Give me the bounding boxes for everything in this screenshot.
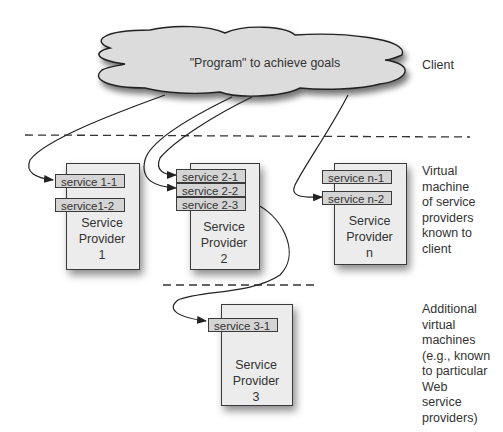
provider-1-label: Service Provider 1 [66, 215, 138, 263]
service-n-2: service n-2 [322, 191, 392, 205]
service-2-3: service 2-3 [176, 197, 246, 211]
service-1-1: service 1-1 [55, 174, 125, 188]
service-2-1: service 2-1 [176, 169, 246, 183]
additional-vm-label: Additional virtual machines (e.g., known… [422, 302, 490, 426]
provider-2-label: Service Provider 2 [190, 219, 258, 267]
virtual-machine-label: Virtual machine of service providers kno… [422, 164, 476, 257]
client-label: Client [422, 58, 454, 74]
client-cloud-label: "Program" to achieve goals [185, 56, 345, 70]
service-3-1: service 3-1 [208, 318, 278, 332]
service-2-2: service 2-2 [176, 183, 246, 197]
service-1-2: service1-2 [55, 198, 125, 212]
separator-client-vm [25, 135, 470, 137]
service-n-1: service n-1 [322, 170, 392, 184]
provider-3-label: Service Provider 3 [221, 357, 291, 405]
provider-n-label: Service Provider n [334, 213, 405, 261]
